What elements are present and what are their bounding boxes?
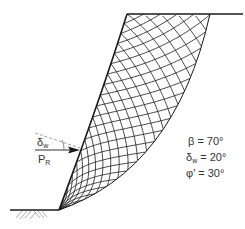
slip-line-mesh <box>59 14 210 210</box>
param-phi: φ′ = 30° <box>186 167 224 179</box>
param-beta: β = 70° <box>188 135 224 147</box>
ground-hatch-icon <box>16 211 47 219</box>
force-label: PR <box>38 153 50 166</box>
delta-w-label: δw <box>37 136 48 149</box>
angle-arc <box>62 140 64 150</box>
param-delta-w: δw = 20° <box>186 151 226 164</box>
slope-diagram <box>0 0 245 229</box>
